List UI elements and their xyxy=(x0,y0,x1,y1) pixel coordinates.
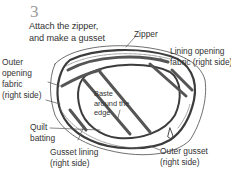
label-zipper: Zipper xyxy=(134,29,158,40)
label-gusset-lining: Gusset lining (right side) xyxy=(50,147,98,169)
label-quilt-batting: Quilt batting xyxy=(30,122,55,144)
label-baste: Baste around the edge xyxy=(94,89,129,118)
label-outer-gusset: Outer gusset (right side) xyxy=(160,146,208,168)
label-lining-opening: Lining opening fabric (right side) xyxy=(170,46,231,68)
zipper-pull-icon xyxy=(168,128,173,139)
label-outer-opening: Outer opening fabric (right side) xyxy=(2,57,42,101)
